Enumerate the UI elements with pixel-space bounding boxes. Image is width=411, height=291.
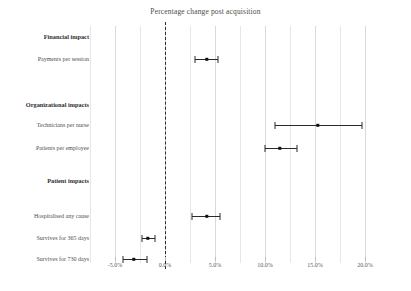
x-tick-label: 5.0% bbox=[209, 262, 222, 268]
plot-area bbox=[90, 26, 390, 263]
estimate-marker bbox=[275, 121, 362, 130]
ci-cap-high bbox=[147, 256, 148, 263]
x-tick-mark bbox=[165, 257, 166, 261]
x-tick-label: 10.0% bbox=[257, 262, 273, 268]
estimate-marker bbox=[195, 55, 218, 64]
row-label: Hospitalised any cause bbox=[34, 213, 89, 219]
gridline-major bbox=[115, 26, 116, 263]
x-tick-mark bbox=[265, 257, 266, 261]
group-label: Organizational impacts bbox=[26, 102, 89, 108]
gridline-major bbox=[365, 26, 366, 263]
estimate-marker bbox=[142, 234, 155, 243]
gridline-major bbox=[315, 26, 316, 263]
forest-plot: Percentage change post acquisition -5.0%… bbox=[0, 0, 411, 291]
ci-cap-low bbox=[142, 235, 143, 242]
chart-title: Percentage change post acquisition bbox=[0, 7, 411, 16]
row-label: Patients per employee bbox=[36, 145, 89, 151]
x-tick-mark bbox=[365, 257, 366, 261]
row-label: Survives for 730 days bbox=[37, 256, 90, 262]
point-estimate bbox=[316, 123, 319, 126]
point-estimate bbox=[205, 214, 208, 217]
row-label: Payments per session bbox=[38, 56, 89, 62]
gridline-minor bbox=[190, 26, 191, 263]
ci-cap-low bbox=[265, 145, 266, 152]
ci-cap-low bbox=[123, 256, 124, 263]
ci-cap-low bbox=[275, 122, 276, 129]
group-label: Financial impact bbox=[44, 34, 89, 40]
gridline-minor bbox=[340, 26, 341, 263]
ci-cap-high bbox=[297, 145, 298, 152]
point-estimate bbox=[278, 146, 281, 149]
x-axis: -5.0%0.0%5.0%10.0%15.0%20.0% bbox=[90, 262, 390, 274]
point-estimate bbox=[146, 236, 149, 239]
x-tick-mark bbox=[315, 257, 316, 261]
x-tick-label: 0.0% bbox=[159, 262, 172, 268]
x-tick-mark bbox=[215, 257, 216, 261]
row-label: Survives for 365 days bbox=[37, 235, 90, 241]
estimate-marker bbox=[123, 255, 147, 264]
ci-cap-low bbox=[192, 213, 193, 220]
zero-reference-line bbox=[165, 22, 166, 269]
ci-cap-high bbox=[218, 56, 219, 63]
row-label: Technicians per nurse bbox=[37, 122, 89, 128]
x-tick-label: 15.0% bbox=[307, 262, 323, 268]
estimate-marker bbox=[192, 212, 220, 221]
x-tick-mark bbox=[115, 257, 116, 261]
x-tick-label: -5.0% bbox=[108, 262, 123, 268]
gridline-minor bbox=[240, 26, 241, 263]
group-label: Patient impacts bbox=[47, 178, 89, 184]
gridline-minor bbox=[140, 26, 141, 263]
point-estimate bbox=[205, 57, 208, 60]
ci-cap-high bbox=[220, 213, 221, 220]
estimate-marker bbox=[265, 144, 297, 153]
ci-cap-low bbox=[195, 56, 196, 63]
point-estimate bbox=[132, 257, 135, 260]
ci-cap-high bbox=[362, 122, 363, 129]
ci-cap-high bbox=[155, 235, 156, 242]
gridline-minor bbox=[90, 26, 91, 263]
x-tick-label: 20.0% bbox=[357, 262, 373, 268]
